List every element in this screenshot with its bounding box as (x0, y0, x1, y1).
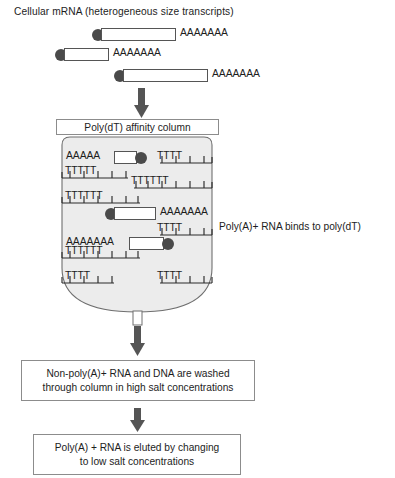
step-elute-text: Poly(A) + RNA is eluted by changing to l… (55, 441, 220, 469)
step-wash-line2: through column in high salt concentratio… (43, 381, 234, 395)
comb-left-2-label: TTTTTT (65, 190, 102, 201)
bound-rna-2: AAAAAAA (105, 206, 255, 222)
comb-right-3-label: TTTT (157, 222, 182, 233)
transcript-2: AAAAAAA (55, 47, 235, 63)
transcript-body (114, 207, 156, 220)
cap-structure-icon (135, 152, 147, 164)
transcript-body (129, 237, 164, 250)
poly-a-tail-label: AAAAAAA (212, 68, 260, 79)
step-elute-box: Poly(A) + RNA is eluted by changing to l… (33, 434, 241, 475)
figure-title: Cellular mRNA (heterogeneous size transc… (14, 6, 234, 17)
cap-structure-icon (162, 238, 174, 250)
step-wash-line1: Non-poly(A)+ RNA and DNA are washed (43, 367, 234, 381)
bound-rna-3: AAAAAAA (66, 236, 216, 252)
arrow-to-wash-step (130, 326, 145, 356)
poly-a-tail-label: AAAAAAA (113, 47, 161, 58)
transcript-body (123, 69, 208, 82)
transcript-3: AAAAAAA (114, 68, 314, 84)
transcript-1: AAAAAAA (92, 27, 272, 43)
column-label-text: Poly(dT) affinity column (84, 122, 190, 133)
step-elute-line2: to low salt concentrations (55, 455, 220, 469)
step-wash-box: Non-poly(A)+ RNA and DNA are washed thro… (21, 360, 255, 401)
transcript-body (101, 28, 176, 41)
poly-a-tail-label: AAAAAAA (180, 27, 228, 38)
poly-a-tail-label: AAAAA (66, 150, 100, 161)
comb-right-2-label: TTTTTT (131, 175, 168, 186)
arrow-to-elute-step (130, 408, 145, 432)
comb-right-4-label: TTTT (157, 270, 182, 281)
poly-a-tail-label: AAAAAAA (160, 206, 208, 217)
bound-rna-1: AAAAA (66, 150, 196, 166)
binding-annotation: Poly(A)+ RNA binds to poly(dT) (219, 221, 361, 232)
transcript-body (114, 151, 137, 164)
polydt-affinity-column-figure: Cellular mRNA (heterogeneous size transc… (0, 0, 395, 478)
comb-left-4-label: TTTT (65, 270, 90, 281)
step-wash-text: Non-poly(A)+ RNA and DNA are washed thro… (43, 367, 234, 395)
column-label-box: Poly(dT) affinity column (56, 119, 219, 135)
arrow-to-column (134, 88, 149, 118)
poly-a-tail-label: AAAAAAA (66, 236, 114, 247)
comb-left-1-label: TTTTT (65, 165, 96, 176)
transcript-body (64, 48, 109, 61)
step-elute-line1: Poly(A) + RNA is eluted by changing (55, 441, 220, 455)
